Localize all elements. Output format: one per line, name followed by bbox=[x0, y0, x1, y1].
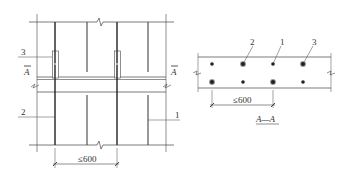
label-item-1: 1 bbox=[175, 110, 180, 120]
label-section-a-right: A bbox=[170, 67, 177, 77]
band-break-right bbox=[163, 84, 171, 88]
section-leader-1 bbox=[273, 46, 281, 64]
label-item-2: 2 bbox=[21, 107, 26, 117]
section-leader-2 bbox=[243, 46, 253, 64]
rebar-large bbox=[210, 80, 214, 84]
rebar-small bbox=[271, 62, 275, 66]
plan-dimension-label: ≤600 bbox=[78, 154, 97, 164]
rebar-small bbox=[210, 62, 214, 66]
section-title: A—A bbox=[255, 114, 276, 124]
rebar-large bbox=[301, 62, 305, 66]
label-section-a-left: A bbox=[23, 67, 30, 77]
label-item-3: 3 bbox=[21, 47, 26, 57]
section-label-item-3: 3 bbox=[312, 37, 317, 47]
plan-view bbox=[18, 14, 180, 168]
section-dimension-label: ≤600 bbox=[233, 95, 252, 105]
section-break-left bbox=[193, 71, 201, 75]
section-view bbox=[193, 46, 335, 124]
rebar-large bbox=[241, 62, 245, 66]
rebar-small bbox=[241, 80, 245, 84]
rebar-small bbox=[301, 80, 305, 84]
drawing-canvas: 3 A A 2 1 ≤600 bbox=[0, 0, 349, 181]
rebar-large bbox=[271, 80, 275, 84]
section-leader-3 bbox=[303, 46, 313, 64]
section-label-item-2: 2 bbox=[250, 37, 255, 47]
top-edge-break-line bbox=[29, 18, 174, 26]
band-break-left bbox=[31, 84, 39, 88]
section-label-item-1: 1 bbox=[280, 37, 285, 47]
rebar-dots bbox=[209, 61, 306, 85]
bottom-edge-break-line bbox=[29, 141, 174, 149]
